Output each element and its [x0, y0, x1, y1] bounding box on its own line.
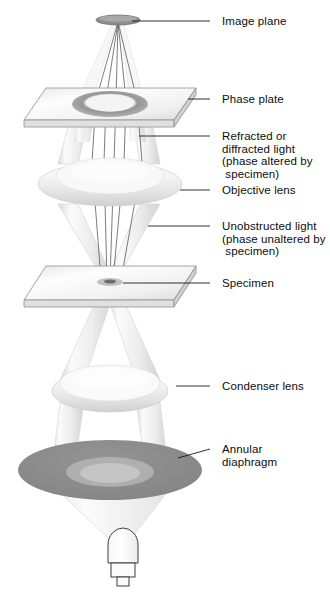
phase-contrast-microscope-diagram [0, 0, 330, 597]
image-plane [96, 15, 140, 25]
specimen-slide [24, 266, 196, 307]
label-unobstructed-light: Unobstructed light (phase unaltered by s… [222, 220, 326, 258]
label-refracted-light: Refracted or diffracted light (phase alt… [222, 130, 313, 180]
light-bulb [108, 528, 138, 586]
label-phase-plate: Phase plate [222, 93, 284, 106]
label-image-plane: Image plane [222, 15, 286, 28]
annular-diaphragm [18, 440, 202, 500]
objective-lens [38, 158, 182, 206]
label-objective-lens: Objective lens [222, 184, 296, 197]
phase-plate [24, 88, 196, 127]
label-annular-diaphragm: Annular diaphragm [222, 443, 277, 468]
label-condenser-lens: Condenser lens [222, 380, 304, 393]
label-specimen: Specimen [222, 277, 274, 290]
